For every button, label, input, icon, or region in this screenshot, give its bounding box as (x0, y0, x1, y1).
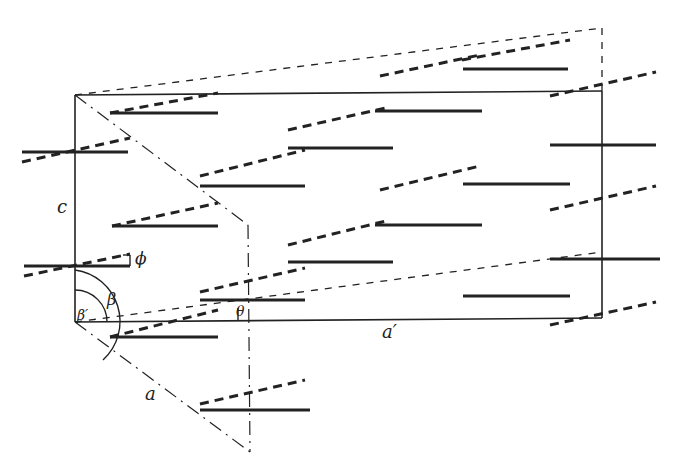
unit-cell-rectangle (75, 91, 602, 322)
label-a-prime: a′ (382, 321, 397, 342)
perspective-edges (75, 28, 602, 322)
label-theta: θ (236, 303, 245, 319)
label-c: c (57, 196, 67, 217)
label-beta-prime: β′ (76, 307, 89, 323)
label-beta: β (106, 290, 116, 309)
molecule-solid-bars (22, 69, 660, 410)
angle-arcs (75, 255, 238, 360)
oblique-axis (75, 95, 250, 452)
label-phi: ϕ (135, 248, 147, 268)
lattice-diagram: c ϕ β β′ θ a′ a (0, 0, 676, 464)
label-a: a (145, 383, 156, 404)
